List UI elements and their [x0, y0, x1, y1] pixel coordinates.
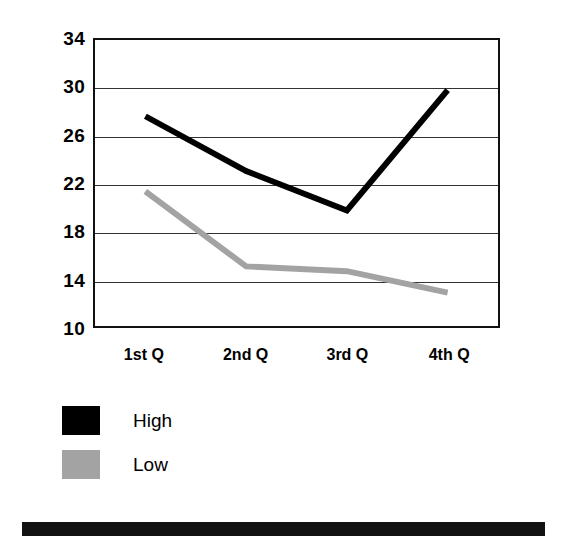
y-axis-tick-label: 30 [33, 77, 85, 96]
gridline [95, 282, 498, 283]
gridline [95, 137, 498, 138]
legend-swatch-icon [62, 406, 100, 435]
legend-item[interactable]: Low [62, 445, 172, 483]
x-axis-category-label: 2nd Q [223, 345, 268, 364]
series-line-high [145, 90, 447, 210]
plot-area [93, 38, 500, 328]
line-chart-figure: 34302622181410 1st Q2nd Q3rd Q4th Q High… [0, 0, 583, 536]
legend-item-label: High [133, 411, 172, 430]
y-axis-tick-label: 34 [33, 29, 85, 48]
footer-bar [22, 522, 545, 536]
gridline [95, 88, 498, 89]
gridline [95, 185, 498, 186]
x-axis-category-label: 4th Q [429, 345, 470, 364]
y-axis-tick-label: 10 [33, 319, 85, 338]
x-axis-category-labels: 1st Q2nd Q3rd Q4th Q [93, 345, 500, 371]
legend-item[interactable]: High [62, 401, 172, 439]
x-axis-category-label: 1st Q [124, 345, 164, 364]
y-axis-tick-label: 26 [33, 125, 85, 144]
y-axis-tick-labels: 34302622181410 [33, 38, 85, 328]
legend-item-label: Low [133, 455, 168, 474]
legend-swatch-icon [62, 450, 100, 479]
y-axis-tick-label: 18 [33, 222, 85, 241]
y-axis-tick-label: 22 [33, 174, 85, 193]
x-axis-category-label: 3rd Q [326, 345, 368, 364]
y-axis-tick-label: 14 [33, 270, 85, 289]
series-layer [95, 40, 498, 326]
series-line-low [145, 191, 447, 292]
gridline [95, 233, 498, 234]
chart-legend: HighLow [62, 401, 172, 489]
